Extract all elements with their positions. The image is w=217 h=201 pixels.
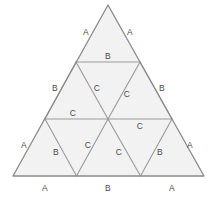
edge-label-l5: C xyxy=(94,84,100,93)
edge-label-l1: A xyxy=(83,28,89,37)
edge-label-l13: C xyxy=(116,148,122,157)
edge-label-l7: B xyxy=(159,84,165,93)
edge-label-l4: B xyxy=(52,84,58,93)
edge-label-l18: A xyxy=(169,184,175,193)
triangle-figure: A A B B C C B C C A B C C B A A B A xyxy=(0,0,217,201)
edge-label-l10: A xyxy=(21,141,27,150)
edge-label-l6: C xyxy=(124,90,130,99)
edge-label-l3: B xyxy=(105,52,111,61)
triangle-cell-faces xyxy=(13,5,204,176)
triangle-diagram xyxy=(0,0,217,201)
edge-label-l2: A xyxy=(127,28,133,37)
edge-label-l12: C xyxy=(85,141,91,150)
edge-label-l16: A xyxy=(42,184,48,193)
edge-label-l17: B xyxy=(105,184,111,193)
edge-label-l9: C xyxy=(137,122,143,131)
edge-label-l11: B xyxy=(53,148,59,157)
edge-label-l8: C xyxy=(70,109,76,118)
edge-label-l14: B xyxy=(157,148,163,157)
edge-label-l15: A xyxy=(187,141,193,150)
